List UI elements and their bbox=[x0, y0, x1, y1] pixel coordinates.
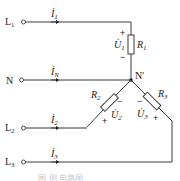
terminal-l2 bbox=[22, 126, 26, 130]
label-r3: R3 bbox=[157, 88, 168, 101]
terminal-l1 bbox=[22, 20, 26, 24]
label-n-prime: N' bbox=[135, 70, 144, 81]
u3-plus-sign: + bbox=[153, 113, 158, 123]
label-i2: İ2 bbox=[50, 114, 58, 127]
branch-r2 bbox=[87, 80, 131, 127]
u3-minus-sign: − bbox=[137, 96, 142, 106]
label-l3: L3 bbox=[5, 156, 15, 169]
label-i3: İ3 bbox=[50, 148, 58, 161]
label-u2: U̇2 bbox=[111, 109, 122, 122]
label-r1: R1 bbox=[136, 39, 147, 52]
label-in: İN bbox=[50, 66, 59, 79]
label-u1: U̇1 bbox=[114, 39, 125, 52]
line-n bbox=[20, 78, 132, 82]
label-r2: R2 bbox=[90, 89, 101, 102]
label-l2: L2 bbox=[5, 122, 15, 135]
line-l3 bbox=[22, 160, 173, 164]
resistor-r1 bbox=[128, 35, 134, 54]
u1-plus-sign: + bbox=[120, 28, 125, 38]
label-l1: L1 bbox=[5, 16, 15, 29]
label-u3: U̇3 bbox=[137, 108, 148, 121]
terminal-l3 bbox=[22, 160, 26, 164]
label-n: N bbox=[6, 75, 13, 86]
u1-minus-sign: − bbox=[120, 52, 125, 62]
u2-plus-sign: + bbox=[102, 116, 107, 126]
u2-minus-sign: − bbox=[117, 96, 122, 106]
label-i1: İ1 bbox=[50, 8, 58, 21]
figure-caption: 图 例 电路图 bbox=[38, 173, 83, 181]
circuit-diagram: L1 N L2 L3 İ1 İN İ2 İ3 R1 U̇1 + − N' R2 … bbox=[0, 0, 180, 181]
terminal-n bbox=[20, 78, 24, 82]
line-l1 bbox=[22, 20, 132, 80]
